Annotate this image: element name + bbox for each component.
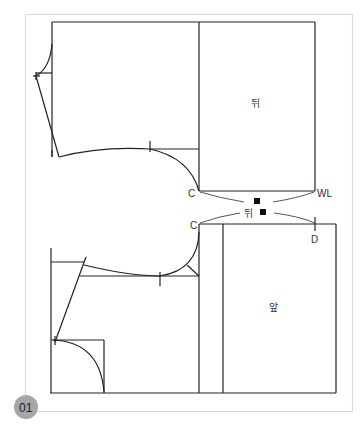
waist-line-label: WL xyxy=(317,188,332,199)
back-center-upper-label: C xyxy=(188,188,195,199)
back-center-lower-label: C xyxy=(190,220,197,231)
front-bodice-draft xyxy=(50,217,336,393)
connection-arcs xyxy=(200,192,315,223)
back-bodice-draft xyxy=(33,22,315,191)
back-between-label: 뒤 xyxy=(244,208,253,219)
figure-frame xyxy=(26,15,353,412)
front-piece-label: 앞 xyxy=(269,302,278,313)
square-marker-lower xyxy=(260,209,266,215)
point-d-label: D xyxy=(311,234,318,245)
square-marker-upper xyxy=(254,198,260,204)
figure-number-text: 01 xyxy=(19,401,33,415)
pattern-diagram: 뒤 C WL 뒤 xyxy=(0,0,363,430)
back-piece-label: 뒤 xyxy=(251,98,260,109)
